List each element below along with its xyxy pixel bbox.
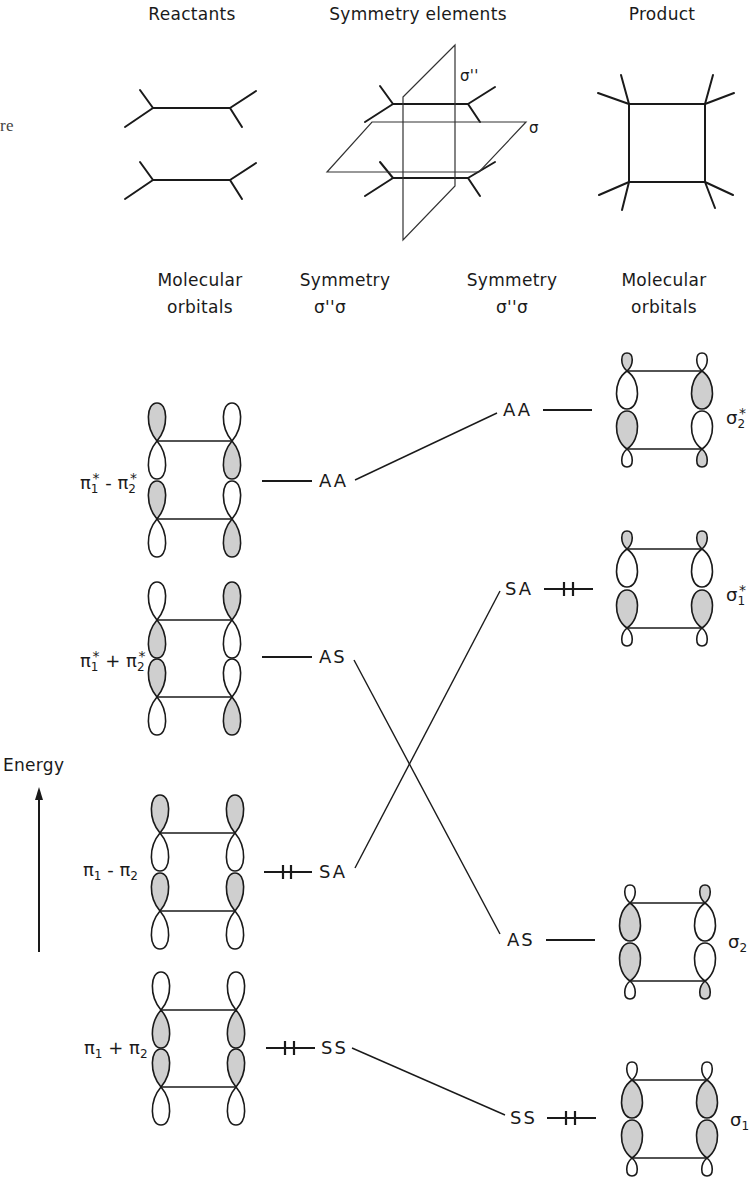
right-sym-header-line1: Symmetry: [467, 270, 558, 290]
reactant-orbital-pi1-minus-pi2: [151, 795, 243, 949]
energy-axis-label: Energy: [3, 755, 64, 775]
product-orbital-sigma1star: [616, 531, 712, 646]
correlation-diagram: [0, 0, 750, 1189]
product-orbital-sigma2: [619, 885, 715, 999]
mo-label-sigma2star: σ2*: [726, 403, 746, 434]
symmetry-ethylene-top: [365, 86, 495, 122]
correlation-SA: [355, 591, 500, 868]
right-mo-header-line2: orbitals: [631, 297, 697, 317]
sym-label-right-AA: AA: [503, 400, 532, 420]
sigma-horizontal-plane: [327, 122, 526, 172]
energy-arrow: [35, 787, 43, 952]
product-cyclobutane: [598, 75, 734, 210]
reactant-orbital-pi1-plus-pi2: [152, 972, 244, 1125]
mo-label-pi1star-minus-pi2star: π1* - π2*: [80, 468, 137, 499]
sym-label-left-AS: AS: [319, 647, 347, 667]
sym-label-left-SA: SA: [319, 862, 347, 882]
sym-label-left-AA: AA: [319, 471, 348, 491]
symmetry-ethylene-bottom: [365, 162, 495, 196]
left-mo-header-line2: orbitals: [167, 297, 233, 317]
reactant-ethylene-top: [125, 90, 256, 127]
product-orbital-sigma2star: [616, 353, 712, 467]
reactant-ethylene-bottom: [125, 162, 256, 199]
mo-label-sigma1star: σ1*: [726, 580, 746, 611]
header-product: Product: [629, 4, 696, 24]
mo-label-pi1star-plus-pi2star: π1* + π2*: [80, 646, 146, 677]
plane-label-sigma-double-prime: σ'': [460, 66, 479, 86]
right-sym-header-line2: σ''σ: [496, 297, 528, 317]
product-orbital-sigma1: [621, 1062, 717, 1176]
left-mo-header-line1: Molecular: [157, 270, 242, 290]
reactant-energy-levels: [262, 481, 315, 1055]
mo-label-sigma1: σ1: [730, 1110, 749, 1136]
sym-label-right-AS: AS: [507, 930, 535, 950]
plane-label-sigma: σ: [529, 118, 539, 138]
sym-label-right-SA: SA: [505, 579, 533, 599]
mo-label-pi1-plus-pi2: π1 + π2: [84, 1038, 148, 1064]
left-sym-header-line1: Symmetry: [300, 270, 391, 290]
sym-label-left-SS: SS: [321, 1038, 348, 1058]
mo-label-pi1-minus-pi2: π1 - π2: [83, 860, 138, 886]
header-reactants: Reactants: [148, 4, 235, 24]
correlation-AA: [355, 413, 497, 480]
left-sym-header-line2: σ''σ: [314, 297, 346, 317]
sigma-double-prime-vertical-plane: [403, 45, 455, 240]
correlation-lines: [352, 413, 505, 1115]
mo-label-sigma2: σ2: [728, 932, 747, 958]
reactant-orbital-pi1star-minus-pi2star: [148, 403, 240, 557]
right-mo-header-line1: Molecular: [621, 270, 706, 290]
reactant-orbital-pi1star-plus-pi2star: [148, 582, 240, 735]
correlation-AS: [354, 660, 500, 934]
correlation-SS: [352, 1048, 505, 1115]
header-symmetry-elements: Symmetry elements: [329, 4, 507, 24]
clipped-margin-text: re: [0, 116, 14, 136]
sym-label-right-SS: SS: [510, 1108, 537, 1128]
product-energy-levels: [543, 410, 596, 1125]
